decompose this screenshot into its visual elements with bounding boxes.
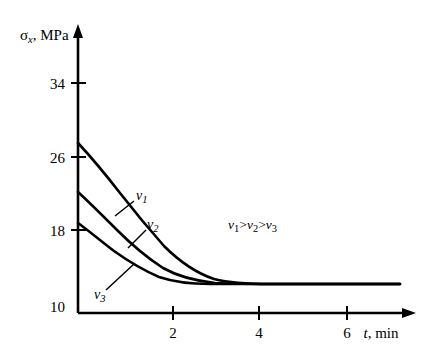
- curve-label-v2: v2: [147, 217, 159, 234]
- leader-line-v2: [128, 230, 146, 248]
- y-tick-label-18: 18: [50, 223, 65, 239]
- leader-lines: [106, 201, 146, 290]
- curve-series-group: [78, 143, 400, 284]
- y-tick-label-26: 26: [50, 150, 66, 166]
- annotation-op-2: >: [258, 217, 266, 232]
- x-axis-title-unit: , min: [368, 325, 399, 341]
- x-axis-title: t, min: [363, 325, 399, 341]
- annotation-inequality: v1>v2>v3: [228, 217, 277, 234]
- x-axis: [78, 308, 416, 318]
- annotation-sub-3: 3: [272, 223, 277, 234]
- y-axis-title-symbol: σ: [20, 27, 28, 43]
- x-tick-label-4: 4: [255, 325, 263, 341]
- annotation-op-1: >: [239, 217, 247, 232]
- curve-label-v3-sub: 3: [99, 293, 105, 304]
- y-axis: [73, 24, 83, 313]
- x-tick-label-6: 6: [343, 325, 351, 341]
- leader-line-v3: [106, 264, 134, 290]
- y-axis-arrow-icon: [73, 24, 83, 38]
- curve-label-v1: v1: [136, 188, 147, 205]
- curve-label-v2-sub: 2: [153, 223, 159, 234]
- curve-v1: [78, 143, 400, 284]
- chart-svg: 34 26 18 10 2 4 6 σx, MPa t, min v1 v2 v…: [0, 0, 439, 351]
- x-tick-label-2: 2: [169, 325, 177, 341]
- y-tick-label-34: 34: [50, 76, 66, 92]
- y-axis-title: σx, MPa: [20, 27, 69, 45]
- y-tick-label-10: 10: [50, 299, 65, 315]
- curve-label-v1-sub: 1: [142, 194, 147, 205]
- curve-label-v3: v3: [94, 287, 105, 304]
- chart-figure: 34 26 18 10 2 4 6 σx, MPa t, min v1 v2 v…: [0, 0, 439, 351]
- y-axis-title-unit: , MPa: [33, 27, 69, 43]
- x-axis-arrow-icon: [402, 308, 416, 318]
